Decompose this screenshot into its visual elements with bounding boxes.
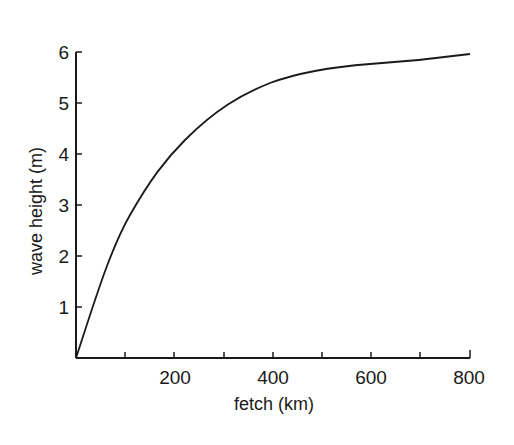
y-axis-title: wave height (m) [26,147,46,276]
x-tick-label-800: 800 [453,367,485,388]
y-tick-label-3: 3 [58,195,69,216]
y-tick-label-5: 5 [58,93,69,114]
x-ticks [125,350,470,358]
x-tick-label-600: 600 [355,367,387,388]
y-tick-label-1: 1 [58,297,69,318]
y-tick-label-6: 6 [58,42,69,63]
y-tick-label-2: 2 [58,246,69,267]
x-tick-label-400: 400 [257,367,289,388]
wave-height-curve [76,54,470,358]
chart: 6 5 4 3 2 1 200 400 600 800 fetch (km) w… [0,0,514,445]
x-axis-title: fetch (km) [234,394,314,414]
y-tick-label-4: 4 [58,144,69,165]
x-tick-label-200: 200 [159,367,191,388]
